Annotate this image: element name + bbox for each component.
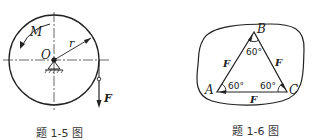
- angle-b-label: 60°: [246, 47, 262, 57]
- arrowhead-bc: [280, 83, 286, 90]
- rope-attach-point: [97, 77, 101, 81]
- vertex-b-label: B: [256, 22, 266, 36]
- figure-1-5-caption: 题 1-5 图: [36, 124, 83, 140]
- figure-canvas: M r O F B A C F F F 60° 60° 60°: [0, 0, 313, 140]
- angle-c-label: 60°: [260, 81, 276, 91]
- radius-arrowhead: [84, 38, 91, 44]
- figure-1-6-caption: 题 1-6 图: [232, 122, 279, 138]
- side-ab-force-label: F: [222, 58, 231, 69]
- radius-label: r: [69, 37, 75, 50]
- side-bc-force-label: F: [274, 57, 283, 68]
- side-ca-force-label: F: [249, 94, 258, 105]
- figure-1-5: [3, 12, 110, 110]
- angle-a-label: 60°: [228, 81, 244, 91]
- force-label: F: [103, 92, 113, 105]
- moment-label: M: [29, 25, 43, 39]
- center-label: O: [41, 48, 51, 62]
- arrowhead-ca: [219, 90, 226, 94]
- vertex-a-label: A: [204, 83, 214, 97]
- vertex-c-label: C: [289, 83, 298, 97]
- force-arrowhead: [97, 100, 102, 108]
